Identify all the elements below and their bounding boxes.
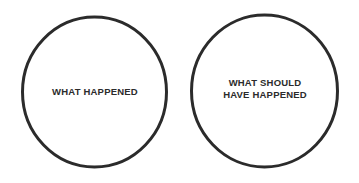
circle-right-label: WHAT SHOULD HAVE HAPPENED: [190, 77, 340, 100]
circle-left-label: WHAT HAPPENED: [21, 86, 169, 98]
diagram-canvas: WHAT HAPPENED WHAT SHOULD HAVE HAPPENED: [0, 0, 359, 183]
